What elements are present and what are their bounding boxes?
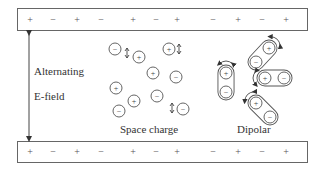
rotation-arrow-icon xyxy=(219,61,233,64)
space-charge-particles: −+++−+−+−− xyxy=(109,43,189,117)
vibration-arrow-icon xyxy=(170,103,174,113)
charge-sign: − xyxy=(224,88,229,97)
vibration-arrow-icon xyxy=(177,44,181,54)
space-charge-label: Space charge xyxy=(120,123,178,135)
charge-sign: + xyxy=(132,97,137,106)
charge-sign: + xyxy=(137,53,142,62)
charge-sign: + xyxy=(263,74,268,83)
charge-sign: + xyxy=(267,44,272,53)
dipole-group: +−+−+−+− xyxy=(219,37,290,123)
charge-sign: + xyxy=(114,84,119,93)
charge-sign: − xyxy=(174,73,179,82)
rotation-arrow-icon xyxy=(253,71,256,85)
charge-sign: + xyxy=(254,99,259,108)
charge-sign: − xyxy=(268,113,273,122)
charge-sign: − xyxy=(117,107,122,116)
dipolar-label: Dipolar xyxy=(237,123,271,135)
charge-sign: + xyxy=(151,69,156,78)
charge-sign: − xyxy=(181,105,186,114)
charge-sign: − xyxy=(113,45,118,54)
charge-sign: − xyxy=(254,58,259,67)
field-label-efield: E-field xyxy=(34,90,65,102)
vibration-arrow-icon xyxy=(125,48,129,58)
field-label-alternating: Alternating xyxy=(34,65,84,77)
charge-sign: − xyxy=(155,92,160,101)
diagram-canvas: −+++−+−+−− +−+−+−+− xyxy=(0,0,324,171)
charge-sign: + xyxy=(224,69,229,78)
charge-sign: + xyxy=(167,45,172,54)
charge-sign: − xyxy=(282,74,287,83)
